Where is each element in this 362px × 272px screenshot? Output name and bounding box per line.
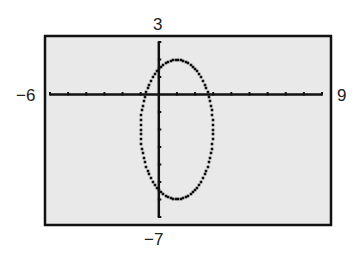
xmin-label: −6 bbox=[16, 87, 35, 104]
xmax-label: 9 bbox=[337, 87, 346, 104]
ymin-label: −7 bbox=[144, 231, 163, 248]
ymax-label: 3 bbox=[153, 16, 162, 33]
graph-screen bbox=[0, 0, 362, 272]
